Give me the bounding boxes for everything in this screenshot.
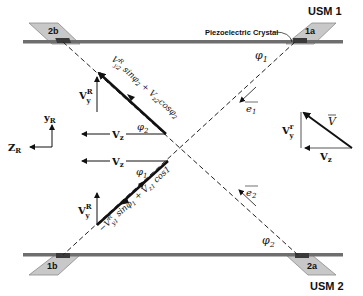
piezo-crystal-label: Piezoelectric Crystal bbox=[205, 28, 278, 37]
z-axis-label: ZR bbox=[8, 142, 21, 155]
crystal-1b bbox=[56, 253, 70, 258]
upper-phi2-label: φ2 bbox=[137, 121, 149, 135]
label-1a: 1a bbox=[305, 26, 316, 36]
usm1-label: USM 1 bbox=[308, 5, 342, 17]
e1-label: e1 bbox=[246, 103, 256, 116]
usm-velocity-diagram: 2b 1a 1b 2a USM 1 USM 2 Piezoelectric Cr… bbox=[0, 0, 363, 296]
usm2-label: USM 2 bbox=[310, 280, 344, 292]
y-axis-label: yR bbox=[43, 112, 56, 125]
lower-vy-label: VRy bbox=[77, 202, 92, 220]
lower-phi1-label: φ1 bbox=[136, 166, 147, 180]
triangle-v-label: V bbox=[328, 115, 337, 128]
angle-phi2-bottom: φ2 bbox=[262, 234, 275, 249]
lower-vector-expression: −VRy1 sinφ1 + Vz1 cos1 bbox=[95, 162, 174, 235]
triangle-vz-label: Vz bbox=[319, 151, 332, 164]
triangle-vy-label: Vry bbox=[281, 122, 294, 140]
unit-vector-e1 bbox=[240, 87, 256, 102]
label-2b: 2b bbox=[48, 26, 59, 36]
upper-vy-label: VRy bbox=[78, 87, 93, 105]
angle-phi1-top: φ1 bbox=[255, 49, 268, 64]
label-2a: 2a bbox=[307, 261, 318, 271]
label-1b: 1b bbox=[47, 261, 58, 271]
upper-vector-expression: VRy2 sinφ2 + Vz2cosφ2 bbox=[108, 53, 183, 123]
